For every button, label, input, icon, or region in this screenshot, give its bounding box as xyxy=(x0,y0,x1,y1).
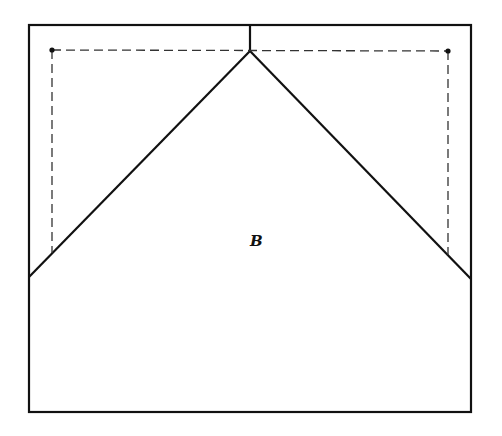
right-corner-dot xyxy=(445,48,450,53)
left-diagonal-line xyxy=(29,51,250,277)
top-dashed-line xyxy=(52,50,448,51)
folding-diagram: B xyxy=(0,0,502,436)
left-corner-dot xyxy=(49,47,54,52)
outer-rectangle xyxy=(29,25,471,412)
region-label-b: B xyxy=(249,232,263,250)
right-diagonal-line xyxy=(250,51,471,279)
